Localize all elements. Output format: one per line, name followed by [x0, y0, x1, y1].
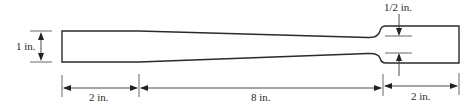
- arrow-left-icon: [140, 85, 148, 91]
- left-grip-dimension: 2 in.: [63, 85, 138, 103]
- arrow-right-icon: [130, 85, 138, 91]
- arrow-down-icon: [396, 28, 402, 36]
- arrow-left-icon: [384, 83, 392, 89]
- arrow-right-icon: [374, 85, 382, 91]
- arrow-right-icon: [450, 83, 458, 89]
- taper-label: 8 in.: [251, 91, 271, 103]
- bar-drawing: 1 in. 1/2 in. 2 in. 8 in. 2 in.: [0, 0, 476, 110]
- height-dimension: 1 in.: [16, 31, 52, 62]
- arrow-up-icon: [396, 53, 402, 61]
- neck-width-dimension: 1/2 in.: [384, 1, 412, 76]
- arrow-left-icon: [63, 85, 71, 91]
- height-label: 1 in.: [16, 40, 36, 52]
- arrow-down-icon: [38, 53, 44, 61]
- right-grip-label: 2 in.: [411, 90, 431, 102]
- neck-width-label: 1/2 in.: [384, 1, 412, 13]
- right-grip-dimension: 2 in.: [384, 83, 458, 102]
- left-grip-label: 2 in.: [89, 91, 109, 103]
- arrow-up-icon: [38, 32, 44, 40]
- taper-dimension: 8 in.: [140, 85, 382, 103]
